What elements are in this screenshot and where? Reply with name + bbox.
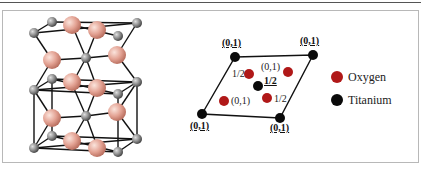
legend-label-oxygen: Oxygen bbox=[348, 70, 386, 84]
titanium-corner bbox=[308, 50, 318, 60]
legend: Oxygen Titanium bbox=[331, 70, 392, 107]
height-label: (0,1) bbox=[231, 95, 250, 107]
legend-label-titanium: Titanium bbox=[348, 93, 392, 107]
height-label: 1/2 bbox=[274, 93, 287, 104]
titanium-corner bbox=[230, 52, 240, 62]
oxygen-atom bbox=[244, 69, 254, 79]
height-label: 1/2 bbox=[264, 75, 277, 86]
titanium-legend-marker bbox=[331, 94, 343, 106]
oxygen-atom bbox=[219, 96, 229, 106]
unit-cell-projection: (0,1) (0,1) (0,1) (0,1) 1/2 (0,1) 1/2 1/… bbox=[190, 35, 319, 134]
height-label: (0,1) bbox=[261, 61, 280, 73]
corner-label: (0,1) bbox=[300, 35, 319, 47]
corner-label: (0,1) bbox=[190, 120, 209, 132]
corner-label: (0,1) bbox=[270, 122, 289, 134]
titanium-corner bbox=[197, 109, 207, 119]
oxygen-legend-marker bbox=[331, 71, 343, 83]
corner-label: (0,1) bbox=[222, 37, 241, 49]
oxygen-atom bbox=[262, 93, 272, 103]
height-label: 1/2 bbox=[232, 68, 245, 79]
titanium-center bbox=[253, 81, 263, 91]
figure-canvas: (0,1) (0,1) (0,1) (0,1) 1/2 (0,1) 1/2 1/… bbox=[0, 0, 432, 174]
oxygen-atom bbox=[283, 67, 293, 77]
